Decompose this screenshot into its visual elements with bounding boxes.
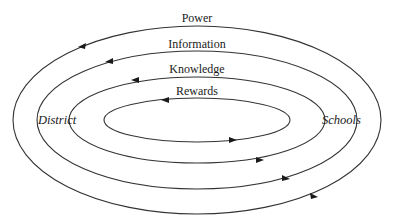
ring-rewards [104,98,290,142]
label-power: Power [182,11,213,25]
arrow-power-bottom [310,193,318,199]
label-information: Information [168,37,225,51]
label-knowledge: Knowledge [169,62,224,76]
node-schools: Schools [322,113,361,127]
flow-diagram: Power Information Knowledge Rewards Dist… [0,0,394,223]
arrow-rewards-bottom [229,137,237,143]
node-district: District [37,113,77,127]
arrow-information-bottom [282,175,290,181]
label-rewards: Rewards [176,84,218,98]
arrow-rewards-top [161,97,169,103]
